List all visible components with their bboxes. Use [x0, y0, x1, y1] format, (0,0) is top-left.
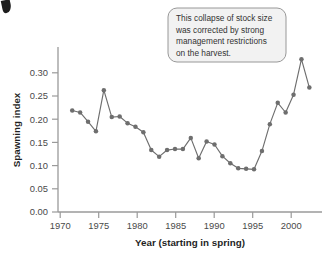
data-point — [244, 167, 249, 172]
data-point — [307, 85, 312, 90]
x-tick-label: 1995 — [242, 220, 263, 231]
x-tick-label: 2000 — [281, 220, 302, 231]
callout-line: on the harvest. — [176, 48, 231, 58]
chart-canvas: 0.00 0.05 0.10 0.15 0.20 0.25 0.30 1970 … — [0, 0, 331, 260]
callout-line: This collapse of stock size — [176, 13, 273, 23]
callout-line: management restrictions — [176, 36, 267, 46]
data-point — [133, 124, 138, 128]
data-point — [110, 115, 115, 120]
data-point — [141, 130, 146, 135]
y-tick-label: 0.30 — [30, 67, 48, 78]
y-axis-ticks — [52, 73, 58, 212]
annotation-callout: This collapse of stock size was correcte… — [168, 8, 286, 62]
data-point — [149, 148, 154, 153]
data-point — [212, 142, 217, 147]
data-point — [70, 108, 75, 113]
data-point — [86, 119, 91, 124]
data-point — [157, 154, 162, 159]
x-tick-label: 1970 — [50, 220, 71, 231]
data-markers — [70, 57, 312, 172]
y-axis-title: Spawning index — [11, 92, 22, 167]
x-tick-label: 1975 — [88, 220, 109, 231]
x-axis-tick-labels: 1970 1975 1980 1985 1990 1995 2000 — [50, 220, 302, 231]
x-axis-ticks — [60, 212, 291, 218]
data-point — [252, 167, 257, 172]
x-tick-label: 1990 — [204, 220, 225, 231]
data-point — [204, 139, 209, 144]
data-point — [299, 57, 304, 62]
data-point — [283, 110, 288, 115]
data-point — [181, 147, 186, 152]
data-point — [173, 147, 178, 152]
y-tick-label: 0.25 — [30, 90, 48, 101]
y-tick-label: 0.15 — [30, 137, 48, 148]
x-axis-title: Year (starting in spring) — [135, 237, 245, 248]
x-tick-label: 1985 — [165, 220, 186, 231]
data-point — [220, 154, 225, 159]
data-point — [268, 122, 273, 127]
y-tick-label: 0.00 — [30, 206, 48, 217]
data-point — [260, 149, 265, 154]
data-point — [78, 110, 83, 115]
y-tick-label: 0.10 — [30, 160, 48, 171]
data-point — [196, 156, 201, 161]
data-line — [72, 59, 309, 169]
y-axis-tick-labels: 0.00 0.05 0.10 0.15 0.20 0.25 0.30 — [30, 67, 48, 217]
y-tick-label: 0.05 — [30, 183, 48, 194]
axis-lines — [58, 47, 322, 212]
data-point — [236, 166, 241, 171]
data-point — [125, 121, 130, 126]
data-point — [94, 129, 99, 134]
data-point — [275, 101, 280, 106]
spawning-index-figure: 0.00 0.05 0.10 0.15 0.20 0.25 0.30 1970 … — [0, 0, 331, 260]
callout-line: was corrected by strong — [175, 25, 264, 35]
y-tick-label: 0.20 — [30, 114, 48, 125]
data-point — [165, 148, 170, 153]
data-point — [189, 136, 194, 141]
data-point — [102, 88, 107, 93]
data-point — [228, 161, 233, 166]
data-point — [117, 114, 122, 119]
x-tick-label: 1980 — [127, 220, 148, 231]
data-point — [291, 92, 296, 97]
